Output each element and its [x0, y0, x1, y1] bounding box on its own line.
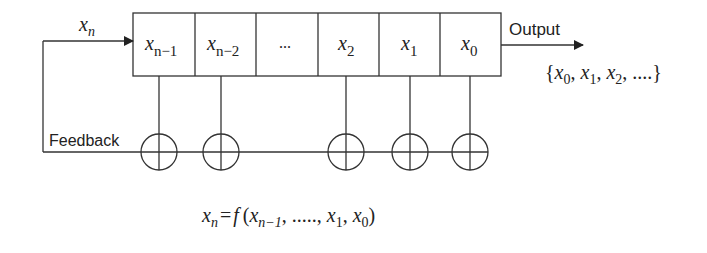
input-arrow: xn [43, 13, 133, 41]
xor-gates [141, 76, 488, 170]
equation-text: xn=f(xn−1, ....., x1, x0) [201, 204, 375, 230]
register-cell-labels: xn−1 xn−2 ... x2 x1 x0 [144, 32, 477, 59]
output-sequence-text: {x0, x1, x2, ....} [545, 61, 662, 87]
cell-ellipsis: ... [279, 34, 291, 51]
shift-register [133, 13, 501, 76]
xor-gate-icon [141, 76, 177, 170]
cell-label: xn−2 [206, 32, 239, 59]
output-label: Output [509, 20, 560, 39]
output-arrow: Output [501, 20, 583, 45]
xor-gate-icon [328, 76, 364, 170]
cell-label: x1 [400, 32, 417, 59]
cell-label: x2 [337, 32, 354, 59]
lfsr-diagram: xn−1 xn−2 ... x2 x1 x0 xn Feedback [0, 0, 707, 253]
xor-gate-icon [203, 76, 239, 170]
feedback-label: Feedback [49, 132, 120, 149]
cell-label: xn−1 [144, 32, 177, 59]
recurrence-equation: xn=f(xn−1, ....., x1, x0) [201, 204, 375, 230]
cell-label: x0 [460, 32, 477, 59]
xor-gate-icon [452, 76, 488, 170]
input-label: xn [78, 13, 95, 39]
feedback-path: Feedback [43, 41, 488, 152]
output-sequence: {x0, x1, x2, ....} [545, 61, 662, 87]
xor-gate-icon [392, 76, 428, 170]
